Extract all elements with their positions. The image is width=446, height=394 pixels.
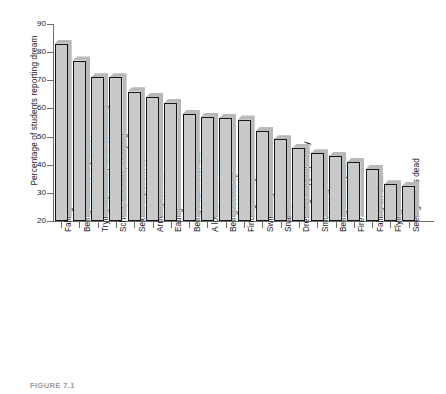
- x-tick-mark: [262, 222, 263, 228]
- x-tick-mark: [207, 222, 208, 228]
- x-tick-mark: [390, 222, 391, 228]
- x-tick-mark: [336, 222, 337, 228]
- y-tick-label-wrap: 60: [0, 108, 46, 109]
- x-tick-mark: [134, 222, 135, 228]
- bar: [55, 44, 68, 221]
- y-tick-label: 40: [16, 160, 46, 169]
- y-tick-label-wrap: 70: [0, 80, 46, 81]
- bar: [238, 120, 251, 221]
- x-tick-mark: [98, 222, 99, 228]
- y-tick-label: 20: [16, 216, 46, 225]
- y-tick-label: 60: [16, 103, 46, 112]
- y-tick-label-wrap: 90: [0, 24, 46, 25]
- bar: [311, 153, 324, 221]
- y-tick-mark: [47, 24, 54, 25]
- x-tick-mark: [226, 222, 227, 228]
- bar: [183, 114, 196, 221]
- y-tick-label-wrap: 40: [0, 165, 46, 166]
- bar: [146, 97, 159, 221]
- bar: [109, 77, 122, 221]
- bar: [256, 131, 269, 221]
- y-tick-label: 70: [16, 75, 46, 84]
- bar: [384, 184, 397, 221]
- y-tick-label-wrap: 20: [0, 221, 46, 222]
- y-tick-label: 50: [16, 132, 46, 141]
- x-tick-mark: [354, 222, 355, 228]
- bar: [292, 148, 305, 221]
- y-tick-mark: [47, 221, 54, 222]
- bar: [73, 61, 86, 221]
- bar: [329, 156, 342, 221]
- x-tick-mark: [281, 222, 282, 228]
- figure-container: Percentage of students reporting dream 2…: [0, 0, 446, 394]
- bar: [219, 118, 232, 221]
- bar: [128, 92, 141, 221]
- bar: [201, 117, 214, 221]
- y-tick-label-wrap: 80: [0, 52, 46, 53]
- y-tick-mark: [47, 108, 54, 109]
- y-tick-label-wrap: 50: [0, 137, 46, 138]
- x-tick-mark: [61, 222, 62, 228]
- x-tick-mark: [244, 222, 245, 228]
- y-tick-mark: [47, 52, 54, 53]
- bar: [366, 169, 379, 221]
- y-tick-mark: [47, 80, 54, 81]
- x-tick-mark: [79, 222, 80, 228]
- y-tick-label: 80: [16, 47, 46, 56]
- y-tick-mark: [47, 165, 54, 166]
- bar: [274, 139, 287, 221]
- bar: [402, 186, 415, 221]
- x-tick-mark: [372, 222, 373, 228]
- bar: [347, 162, 360, 221]
- y-tick-label: 30: [16, 188, 46, 197]
- x-tick-mark: [189, 222, 190, 228]
- y-tick-mark: [47, 137, 54, 138]
- x-tick-mark: [299, 222, 300, 228]
- bar: [164, 103, 177, 221]
- figure-caption: FIGURE 7.1: [30, 381, 75, 390]
- x-tick-mark: [153, 222, 154, 228]
- y-tick-label-wrap: 30: [0, 193, 46, 194]
- x-tick-mark: [317, 222, 318, 228]
- y-tick-label: 90: [16, 19, 46, 28]
- x-tick-mark: [409, 222, 410, 228]
- x-tick-mark: [116, 222, 117, 228]
- y-tick-mark: [47, 193, 54, 194]
- x-tick-mark: [171, 222, 172, 228]
- bar: [91, 77, 104, 221]
